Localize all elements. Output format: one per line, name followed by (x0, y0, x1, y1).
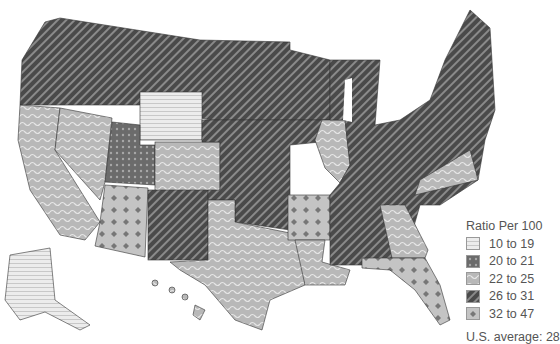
legend-title: Ratio Per 100 (466, 219, 560, 233)
state-wy (140, 92, 202, 140)
state-az (95, 185, 148, 257)
legend: Ratio Per 100 10 to 19 20 to 21 22 to 25… (466, 219, 560, 344)
legend-item: 26 to 31 (466, 288, 560, 306)
diamonds-swatch-icon (466, 307, 480, 320)
state-nm (148, 190, 208, 260)
state-il (315, 120, 350, 183)
legend-item: 20 to 21 (466, 253, 560, 271)
legend-item: 32 to 47 (466, 305, 560, 323)
state-hi (152, 280, 205, 320)
legend-item: 22 to 25 (466, 270, 560, 288)
us-average: U.S. average: 28 (466, 330, 560, 344)
state-ak (5, 248, 90, 330)
state-fl (362, 258, 450, 325)
dots-swatch-icon (466, 255, 480, 268)
diagonal-stripes-swatch-icon (466, 290, 480, 303)
state-co (155, 142, 220, 192)
state-ar (288, 195, 330, 240)
waves-swatch-icon (466, 272, 480, 285)
legend-item: 10 to 19 (466, 235, 560, 253)
horizontal-stripes-swatch-icon (466, 237, 480, 250)
